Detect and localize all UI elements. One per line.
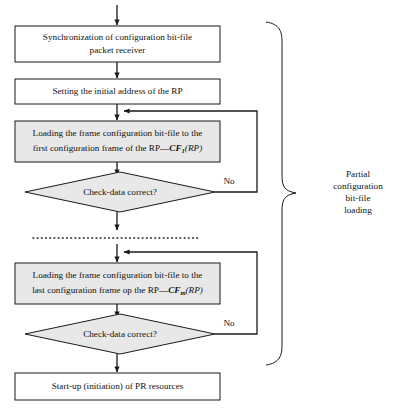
node-synchronization-line1: Synchronization of configuration bit-fil… xyxy=(43,32,192,42)
node-load-first-frame[interactable]: Loading the frame configuration bit-file… xyxy=(15,121,220,162)
load-first-symbol: CF xyxy=(169,143,181,153)
node-set-initial-address-label: Setting the initial address of the RP xyxy=(52,86,182,96)
brace-label-line2: configuration xyxy=(333,181,383,191)
brace-annotation-label: Partial configuration bit-file loading xyxy=(333,169,383,215)
load-last-prefix: last configuration frame op the RP— xyxy=(32,285,169,295)
brace-label-line1: Partial xyxy=(346,169,370,179)
edge-label-no-first: No xyxy=(223,176,235,186)
brace-label-line3: bit-file xyxy=(345,193,370,203)
node-load-last-frame[interactable]: Loading the frame configuration bit-file… xyxy=(15,263,220,304)
node-check-data-last[interactable]: Check-data correct? xyxy=(25,314,215,354)
node-check-data-first[interactable]: Check-data correct? xyxy=(25,172,215,212)
load-first-argument: (RP) xyxy=(185,143,202,153)
node-load-first-frame-line2: first configuration frame of the RP—CF1(… xyxy=(33,143,202,154)
node-load-last-frame-line1: Loading the frame configuration bit-file… xyxy=(33,270,203,280)
load-first-prefix: first configuration frame of the RP— xyxy=(33,143,170,153)
node-startup-pr-resources[interactable]: Start-up (initiation) of PR resources xyxy=(15,373,220,400)
node-synchronization-line2: packet receiver xyxy=(90,45,146,55)
node-check-data-first-label: Check-data correct? xyxy=(83,187,157,197)
flowchart-canvas: Synchronization of configuration bit-fil… xyxy=(0,0,403,412)
curly-brace-icon xyxy=(266,22,296,365)
load-last-symbol: CF xyxy=(168,285,180,295)
node-set-initial-address[interactable]: Setting the initial address of the RP xyxy=(15,79,220,104)
brace-label-line4: loading xyxy=(344,205,372,215)
node-synchronization[interactable]: Synchronization of configuration bit-fil… xyxy=(15,26,220,62)
flowchart-svg: Synchronization of configuration bit-fil… xyxy=(0,0,403,412)
grouping-brace xyxy=(266,22,296,365)
node-load-first-frame-line1: Loading the frame configuration bit-file… xyxy=(33,128,203,138)
load-last-argument: (RP) xyxy=(186,285,203,295)
node-load-last-frame-line2: last configuration frame op the RP—CFm(R… xyxy=(32,285,203,296)
node-startup-pr-resources-label: Start-up (initiation) of PR resources xyxy=(52,381,184,391)
edge-label-no-last: No xyxy=(223,318,235,328)
node-check-data-last-label: Check-data correct? xyxy=(83,329,157,339)
